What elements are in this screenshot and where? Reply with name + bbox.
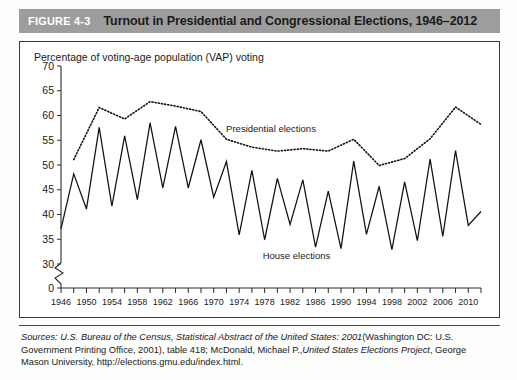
x-tick-label: 1970 [204, 297, 224, 307]
y-tick-label: 70 [42, 60, 54, 72]
figure-root: FIGURE 4-3 Turnout in Presidential and C… [0, 0, 517, 380]
figure-number-label: FIGURE 4-3 [28, 15, 91, 27]
source-part3: United States Elections Project [302, 345, 430, 355]
y-tick-label: 60 [42, 109, 54, 121]
y-tick-label: 40 [42, 208, 54, 220]
chart-frame: Percentage of voting-age population (VAP… [19, 41, 500, 318]
y-tick-label: 50 [42, 159, 54, 171]
turnout-line-chart: 0303540455055606570194619501954195819621… [20, 42, 499, 317]
y-tick-label: 35 [42, 233, 54, 245]
source-part1: U.S. Bureau of the Census, Statistical A… [60, 332, 362, 342]
x-tick-label: 1954 [102, 297, 122, 307]
source-note: Sources: U.S. Bureau of the Census, Stat… [19, 325, 500, 369]
x-tick-label: 1958 [127, 297, 147, 307]
series-house-elections [61, 123, 481, 250]
figure-title: Turnout in Presidential and Congressiona… [104, 14, 478, 28]
x-tick-label: 1946 [51, 297, 71, 307]
series-annotation: House elections [263, 250, 331, 261]
x-tick-label: 1994 [356, 297, 376, 307]
x-tick-label: 1962 [153, 297, 173, 307]
x-tick-label: 1974 [229, 297, 249, 307]
y-tick-label: 0 [48, 282, 54, 294]
x-tick-label: 1950 [76, 297, 96, 307]
x-tick-label: 1998 [382, 297, 402, 307]
source-text: Sources: U.S. Bureau of the Census, Stat… [19, 331, 500, 369]
y-tick-label: 55 [42, 134, 54, 146]
x-tick-label: 1978 [255, 297, 275, 307]
figure-header-band: FIGURE 4-3 Turnout in Presidential and C… [19, 9, 500, 33]
x-tick-label: 1990 [331, 297, 351, 307]
y-tick-label: 30 [42, 258, 54, 270]
x-tick-label: 2010 [458, 297, 478, 307]
source-lead: Sources: [21, 332, 58, 342]
series-annotation: Presidential elections [226, 123, 316, 134]
x-tick-label: 1986 [306, 297, 326, 307]
x-tick-label: 1982 [280, 297, 300, 307]
y-tick-label: 45 [42, 183, 54, 195]
x-tick-label: 2002 [407, 297, 427, 307]
y-tick-label: 65 [42, 84, 54, 96]
x-tick-label: 1966 [178, 297, 198, 307]
x-tick-label: 2006 [433, 297, 453, 307]
